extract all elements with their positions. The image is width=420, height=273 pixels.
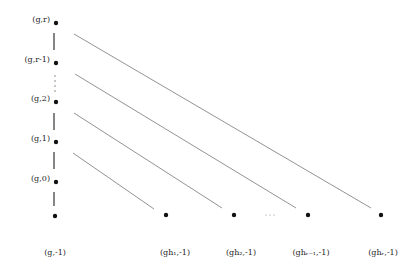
vertical-ellipsis — [54, 75, 55, 91]
node-g-2 — [54, 100, 58, 104]
node-g-r-1 — [54, 61, 58, 65]
label-g-minus-1: (g,-1) — [44, 248, 66, 257]
edge-gr-to-ghr — [74, 34, 371, 208]
node-gh2 — [232, 213, 236, 217]
edge-g1-to-gh1 — [73, 153, 154, 209]
node-g-1 — [54, 140, 58, 144]
node-ghr-1 — [306, 213, 310, 217]
label-g-0: (g,0) — [31, 174, 50, 183]
label-g-r-1: (g,r-1) — [24, 55, 50, 64]
diagonal-edges — [73, 34, 371, 209]
node-g-minus-1 — [53, 214, 57, 218]
label-ghr: (ghᵣ,-1) — [368, 248, 398, 257]
node-g-r — [54, 21, 58, 25]
label-ghr-1: (ghᵣ₋₁,-1) — [292, 248, 329, 257]
edge-gr-1-to-ghr-1 — [75, 74, 296, 208]
label-g-1: (g,1) — [31, 134, 50, 143]
label-g-r: (g,r) — [32, 15, 50, 24]
label-g-2: (g,2) — [31, 94, 50, 103]
node-g-0 — [54, 180, 58, 184]
node-gh1 — [164, 213, 168, 217]
label-gh2: (gh₂,-1) — [226, 248, 256, 257]
node-ghr — [379, 213, 383, 217]
bottom-ellipsis — [265, 214, 274, 215]
poset-diagram: (g,r) (g,r-1) (g,2) (g,1) (g,0) (g,-1) (… — [0, 0, 420, 273]
edge-g2-to-gh2 — [74, 113, 222, 208]
label-gh1: (gh₁,-1) — [160, 248, 190, 257]
